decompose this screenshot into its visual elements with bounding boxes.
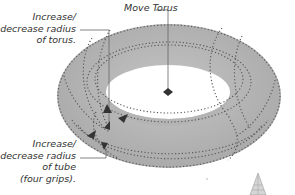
stray-dot <box>206 178 208 180</box>
torus-body <box>57 24 281 168</box>
callout-line: Move Torus <box>124 2 178 14</box>
callout-line: decrease radius <box>0 150 76 162</box>
callout-line: Increase/ <box>0 11 76 23</box>
callout-line: of torus. <box>0 34 76 46</box>
callout-torus-radius: Increase/ decrease radius of torus. <box>0 11 76 46</box>
callout-line: decrease radius <box>0 23 76 35</box>
torus-diagram: Move Torus Increase/ decrease radius of … <box>0 0 295 195</box>
callout-move-torus: Move Torus <box>124 2 178 14</box>
callout-line: Increase/ <box>0 138 76 150</box>
callout-tube-radius: Increase/ decrease radius of tube (four … <box>0 138 76 184</box>
callout-line: of tube <box>0 161 76 173</box>
callout-line: (four grips). <box>0 173 76 185</box>
ucs-cone-icon <box>250 173 266 195</box>
